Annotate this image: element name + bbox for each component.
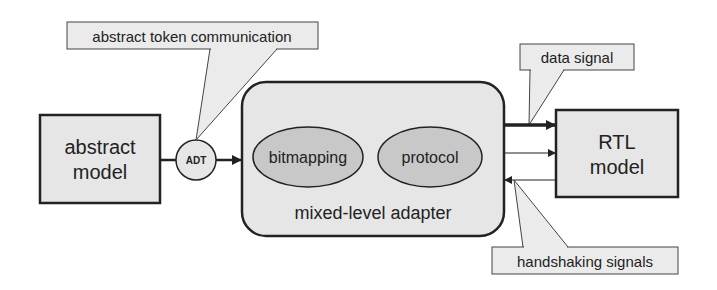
rtl-model-block: RTL model <box>556 110 678 197</box>
diagram-canvas: abstract model ADT abstract token commun… <box>0 0 717 290</box>
rtl-model-label-line1: RTL <box>598 131 635 153</box>
rtl-model-label-line2: model <box>590 156 644 178</box>
callout-handshaking-label: handshaking signals <box>517 253 653 270</box>
adt-label: ADT <box>186 155 207 166</box>
bitmapping-label: bitmapping <box>269 149 347 166</box>
abstract-model-label-line2: model <box>73 161 127 183</box>
protocol-label: protocol <box>402 149 459 166</box>
mixed-level-adapter-block: bitmapping protocol mixed-level adapter <box>242 82 504 236</box>
adt-node: ADT <box>176 140 216 180</box>
callout-abstract-token-label: abstract token communication <box>92 28 291 45</box>
callout-data-signal-label: data signal <box>541 49 614 66</box>
abstract-model-block: abstract model <box>40 115 160 203</box>
abstract-model-label-line1: abstract <box>64 136 136 158</box>
adapter-label: mixed-level adapter <box>294 203 451 223</box>
